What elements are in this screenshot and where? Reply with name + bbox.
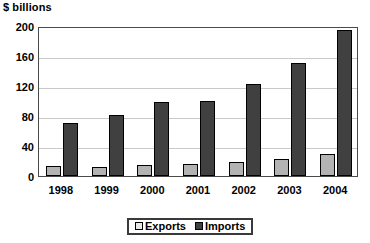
y-tick-label: 80 [0,112,34,123]
bar-imports-2002 [246,84,261,176]
bar-group [313,28,358,176]
y-axis-tick-labels: 04080120160200 [0,0,34,243]
x-tick-label-1998: 1998 [38,184,84,196]
bar-group [39,28,85,176]
bar-exports-2000 [137,165,152,176]
bar-exports-2001 [183,164,198,176]
bar-imports-2004 [337,30,352,176]
imports-swatch-icon [195,222,203,230]
exports-swatch-icon [135,222,143,230]
bar-imports-1999 [109,115,124,176]
bar-group [222,28,268,176]
y-tick-label: 160 [0,52,34,63]
bar-imports-2000 [154,102,169,176]
bar-imports-2001 [200,101,215,176]
x-tick-label-2000: 2000 [129,184,175,196]
bar-chart: $ billions 04080120160200 19981999200020… [0,0,370,243]
x-tick-label-2002: 2002 [221,184,267,196]
plot-area [38,27,358,177]
legend-item-imports[interactable]: Imports [195,221,245,232]
bar-imports-1998 [63,123,78,176]
bar-exports-2003 [274,159,289,176]
bar-exports-1998 [46,166,61,176]
x-tick-label-2001: 2001 [175,184,221,196]
chart-legend: ExportsImports [127,218,253,235]
y-tick-label: 120 [0,82,34,93]
x-tick-label-2004: 2004 [312,184,358,196]
bar-exports-2004 [320,154,335,176]
legend-label: Imports [205,221,245,232]
bar-group [85,28,131,176]
bar-group [268,28,314,176]
x-tick-label-2003: 2003 [267,184,313,196]
y-tick-label: 40 [0,142,34,153]
legend-item-exports[interactable]: Exports [135,221,186,232]
bar-exports-2002 [229,162,244,176]
bar-group [130,28,176,176]
y-tick-label: 200 [0,22,34,33]
bar-imports-2003 [291,63,306,176]
x-tick-label-1999: 1999 [84,184,130,196]
legend-label: Exports [145,221,186,232]
bar-group [176,28,222,176]
bar-exports-1999 [92,167,107,176]
y-tick-label: 0 [0,172,34,183]
